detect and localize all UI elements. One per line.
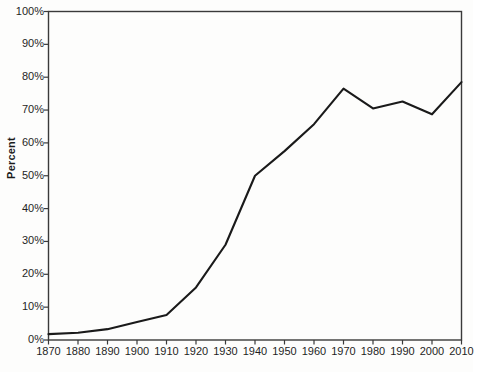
data-series-line: [49, 82, 462, 334]
